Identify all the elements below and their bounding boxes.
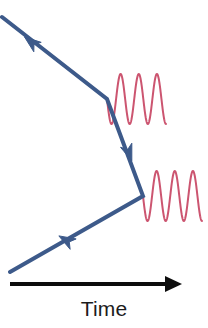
diagram-canvas [0,0,208,328]
time-axis-label: Time [0,296,208,322]
photon-lower [143,171,202,221]
photon-upper [107,74,166,124]
electron-line-group [2,17,143,272]
feynman-diagram-figure: Time [0,0,208,328]
electron-line [2,17,143,272]
time-axis-group [10,276,182,292]
time-axis-arrow-icon [165,276,182,292]
